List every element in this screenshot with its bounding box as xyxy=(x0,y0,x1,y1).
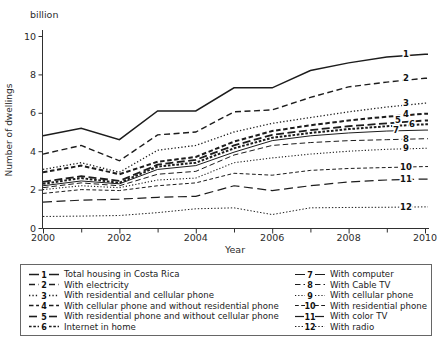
legend-column-left: 1Total housing in Costa Rica2With electr… xyxy=(29,269,295,332)
svg-text:10: 10 xyxy=(304,302,316,311)
series-end-label-10: 10 xyxy=(400,162,412,172)
svg-text:9: 9 xyxy=(307,291,313,300)
x-tick-label: 2002 xyxy=(107,232,131,243)
legend-item-12: 12With radio xyxy=(295,322,427,333)
legend-item-5: 5With residential phone and without cell… xyxy=(29,311,295,322)
legend-item-6: 6Internet in home xyxy=(29,322,295,333)
series-end-label-3: 3 xyxy=(403,98,409,108)
x-tick-label: 2008 xyxy=(337,232,361,243)
series-line-3 xyxy=(43,103,428,172)
legend-marker-6: 6 xyxy=(29,322,59,331)
line-chart-figure: billion Number of dwellings 024681020002… xyxy=(0,0,448,343)
svg-text:12: 12 xyxy=(304,323,315,332)
y-tick-label: 4 xyxy=(30,146,36,157)
y-tick-label: 6 xyxy=(30,107,36,118)
legend-item-1: 1Total housing in Costa Rica xyxy=(29,269,295,280)
series-line-4 xyxy=(43,114,428,174)
legend-marker-3: 3 xyxy=(29,291,59,300)
svg-text:11: 11 xyxy=(304,312,316,321)
legend-item-3: 3With residential and cellular phone xyxy=(29,290,295,301)
legend-item-8: 8With Cable TV xyxy=(295,280,427,291)
svg-text:5: 5 xyxy=(41,312,47,321)
legend-item-10: 10With residential phone xyxy=(295,301,427,312)
plot-area: 0246810200020022004200620082010123456789… xyxy=(0,0,448,260)
svg-text:3: 3 xyxy=(41,291,47,300)
legend-box: 1Total housing in Costa Rica2With electr… xyxy=(20,264,432,336)
series-line-6 xyxy=(43,124,428,184)
legend-marker-12: 12 xyxy=(295,322,325,331)
legend-item-label: With computer xyxy=(330,269,394,279)
legend-item-7: 7With computer xyxy=(295,269,427,280)
svg-text:2: 2 xyxy=(41,281,47,290)
legend-item-label: With color TV xyxy=(330,311,387,321)
legend-item-label: With residential phone xyxy=(330,301,427,311)
y-tick-label: 8 xyxy=(30,69,36,80)
legend-item-label: With residential and cellular phone xyxy=(64,290,214,300)
legend-marker-8: 8 xyxy=(295,280,325,289)
series-end-label-11: 11 xyxy=(400,174,412,184)
x-axis-title: Year xyxy=(205,244,265,255)
y-tick-label: 2 xyxy=(30,184,36,195)
legend-marker-7: 7 xyxy=(295,270,325,279)
series-end-label-9: 9 xyxy=(403,143,409,153)
legend-item-label: With cellular phone xyxy=(330,290,413,300)
series-end-label-4: 4 xyxy=(403,109,409,119)
x-tick-label: 2000 xyxy=(31,232,55,243)
svg-text:6: 6 xyxy=(41,323,47,332)
series-end-label-12: 12 xyxy=(400,202,412,212)
legend-item-label: With Cable TV xyxy=(330,280,391,290)
series-end-label-1: 1 xyxy=(403,49,409,59)
series-end-label-7: 7 xyxy=(393,125,399,135)
legend-item-label: Total housing in Costa Rica xyxy=(64,269,179,279)
series-end-label-2: 2 xyxy=(403,73,409,83)
legend-item-9: 9With cellular phone xyxy=(295,290,427,301)
series-line-7 xyxy=(43,130,428,186)
legend-column-right: 7With computer8With Cable TV9With cellul… xyxy=(295,269,427,332)
legend-marker-2: 2 xyxy=(29,280,59,289)
x-tick-label: 2004 xyxy=(184,232,208,243)
legend-marker-9: 9 xyxy=(295,291,325,300)
legend-marker-5: 5 xyxy=(29,312,59,321)
svg-text:4: 4 xyxy=(41,302,47,311)
x-tick-label: 2010 xyxy=(413,232,437,243)
legend-marker-1: 1 xyxy=(29,270,59,279)
legend-item-label: Internet in home xyxy=(64,322,136,332)
legend-item-2: 2With electricity xyxy=(29,280,295,291)
x-tick-label: 2006 xyxy=(260,232,284,243)
series-end-label-8: 8 xyxy=(403,134,409,144)
legend-item-11: 11With color TV xyxy=(295,311,427,322)
legend-item-label: With electricity xyxy=(64,280,129,290)
legend-marker-4: 4 xyxy=(29,301,59,310)
legend-item-label: With cellular phone and without resident… xyxy=(64,301,279,311)
y-tick-label: 10 xyxy=(24,31,36,42)
legend-marker-11: 11 xyxy=(295,312,325,321)
legend-item-label: With residential phone and without cellu… xyxy=(64,311,279,321)
legend-marker-10: 10 xyxy=(295,301,325,310)
svg-text:1: 1 xyxy=(41,270,47,279)
svg-text:8: 8 xyxy=(307,281,313,290)
legend-item-4: 4With cellular phone and without residen… xyxy=(29,301,295,312)
legend-item-label: With radio xyxy=(330,322,374,332)
series-line-12 xyxy=(43,207,428,217)
series-end-label-6: 6 xyxy=(409,119,415,129)
series-end-label-5: 5 xyxy=(395,115,401,125)
svg-text:7: 7 xyxy=(307,270,313,279)
